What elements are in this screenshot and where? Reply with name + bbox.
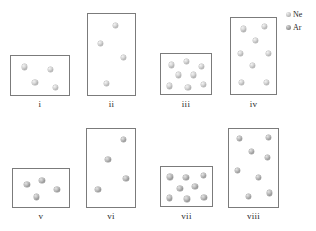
gas-container-vi bbox=[86, 128, 136, 208]
particle-ne bbox=[241, 26, 246, 31]
particle-ar bbox=[192, 184, 197, 189]
particle-ar bbox=[237, 136, 242, 141]
particle-ne bbox=[32, 80, 37, 85]
particle-ne bbox=[169, 62, 174, 67]
particle-ne bbox=[104, 81, 109, 86]
particle-ne bbox=[98, 41, 103, 46]
particle-ne bbox=[264, 80, 269, 85]
container-label-vii: vii bbox=[160, 211, 213, 221]
particle-ar bbox=[201, 195, 206, 200]
container-label-iv: iv bbox=[230, 99, 277, 109]
particle-ne bbox=[167, 83, 172, 88]
gas-container-viii bbox=[228, 128, 279, 208]
gas-container-ii bbox=[87, 13, 136, 96]
particle-ne bbox=[113, 23, 118, 28]
container-label-viii: viii bbox=[228, 211, 279, 221]
particle-ne bbox=[121, 55, 126, 60]
particle-ar bbox=[177, 186, 182, 191]
sphere-icon bbox=[286, 25, 291, 30]
particle-ar bbox=[256, 175, 261, 180]
particle-ar bbox=[265, 155, 270, 160]
particle-ne bbox=[53, 85, 58, 90]
particle-ar bbox=[246, 194, 251, 199]
particle-ne bbox=[250, 63, 255, 68]
particle-ar bbox=[183, 175, 188, 180]
gas-container-i bbox=[10, 55, 70, 96]
particle-ar bbox=[105, 157, 110, 162]
particle-ne bbox=[199, 64, 204, 69]
container-label-i: i bbox=[10, 99, 70, 109]
particle-ar bbox=[167, 174, 172, 179]
particle-ne bbox=[266, 51, 271, 56]
legend-label: Ne bbox=[293, 10, 302, 19]
particle-ar bbox=[267, 190, 272, 195]
container-label-vi: vi bbox=[86, 211, 136, 221]
particle-ar bbox=[39, 178, 44, 183]
legend: NeAr bbox=[286, 9, 316, 35]
particle-ar bbox=[201, 173, 206, 178]
particle-ar bbox=[184, 196, 189, 201]
container-label-v: v bbox=[12, 211, 70, 221]
legend-entry-ar: Ar bbox=[286, 22, 316, 33]
particle-ar bbox=[24, 182, 29, 187]
particle-ne bbox=[176, 72, 181, 77]
figure-canvas: iiiiiiivvviviiviiiNeAr bbox=[0, 0, 316, 231]
particle-ar bbox=[123, 176, 128, 181]
particle-ne bbox=[239, 80, 244, 85]
sphere-icon bbox=[286, 12, 291, 17]
particle-ne bbox=[238, 51, 243, 56]
particle-ne bbox=[262, 24, 267, 29]
particle-ne bbox=[185, 85, 190, 90]
particle-ne bbox=[22, 64, 27, 69]
particle-ne bbox=[253, 38, 258, 43]
particle-ar bbox=[54, 187, 59, 192]
particle-ar bbox=[167, 195, 172, 200]
container-label-ii: ii bbox=[87, 99, 136, 109]
gas-container-iii bbox=[160, 53, 212, 95]
particle-ar bbox=[95, 187, 100, 192]
particle-ne bbox=[201, 82, 206, 87]
particle-ne bbox=[184, 59, 189, 64]
particle-ar bbox=[235, 168, 240, 173]
legend-label: Ar bbox=[293, 23, 301, 32]
gas-container-iv bbox=[230, 17, 277, 95]
container-label-iii: iii bbox=[160, 99, 212, 109]
particle-ar bbox=[121, 137, 126, 142]
gas-container-vii bbox=[160, 166, 213, 207]
particle-ar bbox=[249, 149, 254, 154]
particle-ar bbox=[266, 135, 271, 140]
particle-ar bbox=[34, 194, 39, 199]
legend-entry-ne: Ne bbox=[286, 9, 316, 20]
particle-ne bbox=[191, 72, 196, 77]
particle-ne bbox=[48, 67, 53, 72]
gas-container-v bbox=[12, 168, 70, 208]
